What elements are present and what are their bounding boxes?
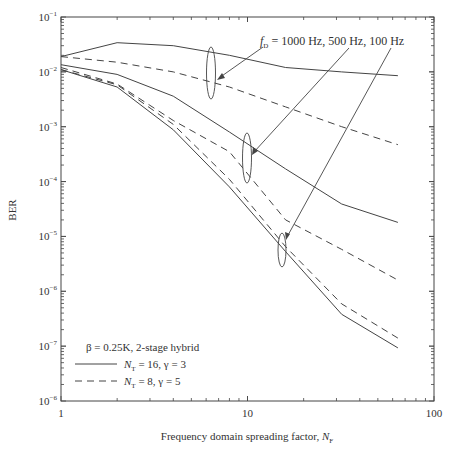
legend-entry-dashed: NT = 8, γ = 5 [123,375,181,390]
x-axis-title: Frequency domain spreading factor, NF [161,430,334,445]
y-tick-label: 10−7 [39,339,58,352]
x-tick-label: 10 [242,407,254,419]
series-line-5 [61,70,398,339]
y-tick-label: 10−3 [39,120,58,133]
y-tick-label: 10−6 [39,394,58,407]
x-axis-tick-labels: 110100 [58,407,443,419]
series-line-4 [61,70,398,348]
x-tick-label: 1 [58,407,64,419]
series-line-2 [61,65,398,223]
series-line-3 [61,68,398,281]
legend-entry-solid: NT = 16, γ = 3 [123,358,186,373]
y-axis-tick-labels: 10−110−210−310−410−510−610−710−6 [39,10,58,407]
ber-chart: 110100 10−110−210−310−410−510−610−710−6 … [0,0,454,453]
arrowhead-1000hz [217,73,225,80]
x-tick-label: 100 [426,407,443,419]
y-tick-label: 10−4 [39,175,58,188]
y-tick-label: 10−2 [39,65,58,78]
legend: β = 0.25K, 2-stage hybrid NT = 16, γ = 3… [75,341,200,390]
legend-title: β = 0.25K, 2-stage hybrid [86,341,200,353]
arrow-100hz [287,48,391,237]
y-axis-title: BER [6,199,18,221]
arrow-1000hz [219,47,263,78]
ellipse-1000hz [207,47,216,99]
ellipse-500hz [243,133,252,183]
y-tick-label: 10−6 [39,284,58,297]
doppler-annotation: fD = 1000 Hz, 500 Hz, 100 Hz [260,34,404,50]
data-series [61,43,398,348]
y-tick-label: 10−5 [39,229,58,242]
y-tick-label: 10−1 [39,10,58,23]
